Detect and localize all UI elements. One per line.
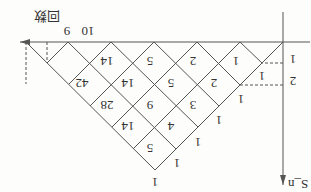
svg-text:3: 3 xyxy=(190,98,197,113)
svg-text:5: 5 xyxy=(147,54,154,69)
svg-text:28: 28 xyxy=(101,98,114,113)
svg-text:2: 2 xyxy=(211,76,218,91)
svg-text:1: 1 xyxy=(259,69,266,84)
svg-text:14: 14 xyxy=(121,119,135,134)
svg-text:1: 1 xyxy=(195,135,202,150)
svg-text:4: 4 xyxy=(167,119,174,134)
y-tick-1: 1 xyxy=(290,52,297,67)
svg-text:14: 14 xyxy=(121,76,135,91)
svg-text:9: 9 xyxy=(147,98,154,113)
svg-text:14: 14 xyxy=(100,54,114,69)
svg-text:1: 1 xyxy=(152,175,159,190)
x-axis-label: 回数 xyxy=(34,9,60,24)
diagram-canvas: 回数 10 9 1 2 S_n 42 1 2 5 14 1 2 5 14 1 3… xyxy=(0,0,311,192)
svg-text:5: 5 xyxy=(168,76,175,91)
catalan-lattice-diagram: 回数 10 9 1 2 S_n 42 1 2 5 14 1 2 5 14 1 3… xyxy=(0,0,311,192)
svg-text:1: 1 xyxy=(216,113,223,128)
svg-text:5: 5 xyxy=(147,141,154,156)
y-axis-label: S_n xyxy=(287,177,308,192)
svg-text:2: 2 xyxy=(190,54,197,69)
end-value: 42 xyxy=(76,76,89,91)
y-tick-2: 2 xyxy=(290,74,297,89)
svg-text:1: 1 xyxy=(233,54,240,69)
svg-text:1: 1 xyxy=(174,156,181,171)
svg-text:1: 1 xyxy=(238,92,245,107)
x-tick-9: 9 xyxy=(64,24,71,39)
x-tick-10: 10 xyxy=(82,24,95,39)
y-axis-arrow-icon xyxy=(280,175,286,185)
